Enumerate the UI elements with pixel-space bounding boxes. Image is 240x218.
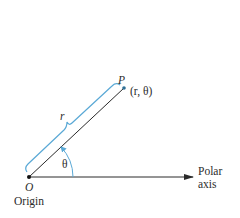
- polar-axis-label-line1: Polar: [198, 165, 222, 177]
- polar-coordinates-diagram: P (r, θ) r θ O Origin Polar axis: [0, 0, 240, 218]
- point-p-coords-label: (r, θ): [130, 85, 152, 98]
- radius-label: r: [60, 110, 65, 122]
- point-p-dot: [122, 86, 126, 90]
- radius-brace: [26, 84, 120, 172]
- polar-axis-label-line2: axis: [198, 178, 217, 190]
- origin-label: O: [25, 181, 34, 193]
- angle-label: θ: [62, 158, 68, 170]
- origin-caption: Origin: [14, 195, 44, 208]
- point-p-label: P: [117, 74, 125, 86]
- origin-dot: [27, 175, 31, 179]
- ray-op: [29, 88, 124, 177]
